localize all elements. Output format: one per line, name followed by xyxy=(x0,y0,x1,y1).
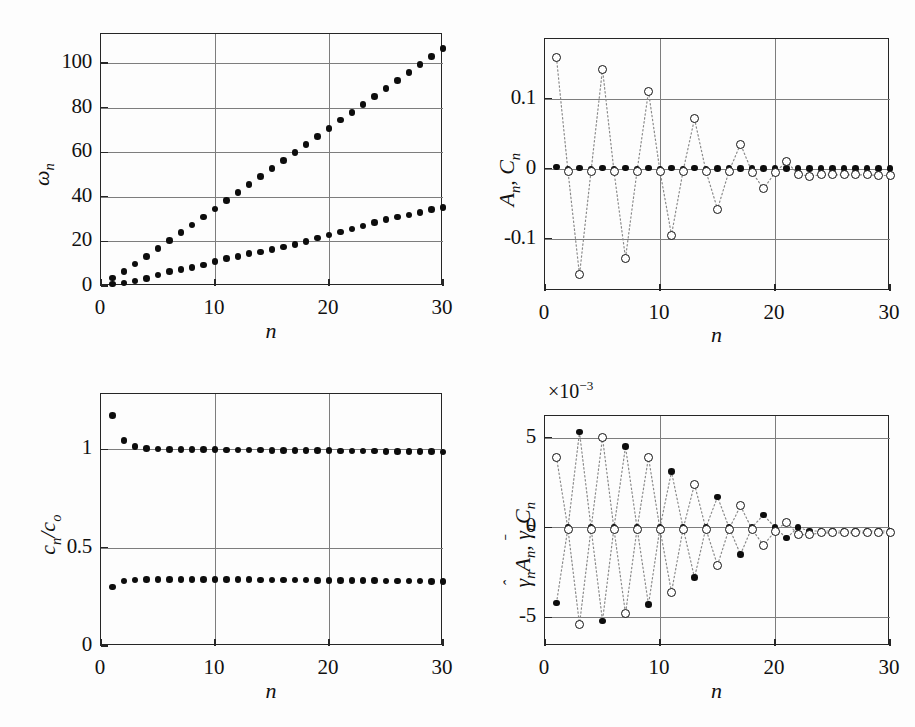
y-tickmark xyxy=(545,98,552,99)
data-point-branch-lower xyxy=(223,255,230,262)
data-point-branch-lower xyxy=(109,281,116,288)
data-point-cn-upper xyxy=(280,447,287,454)
data-point-branch-upper xyxy=(349,109,356,116)
data-point-Cn xyxy=(794,170,803,179)
x-tick-label: 30 xyxy=(849,302,915,323)
data-point-branch-lower xyxy=(178,266,185,273)
x-tick-label: 0 xyxy=(60,657,140,678)
y-gridline xyxy=(101,63,443,64)
data-point-branch-upper xyxy=(394,77,401,84)
x-axis-title-panel-omega: n xyxy=(241,318,301,344)
data-point-cn-upper xyxy=(428,448,435,455)
figure-root: 0204060801000102030nωn-0.100.10102030nAn… xyxy=(0,0,915,727)
data-point-cn-lower xyxy=(383,578,390,585)
x-tick-label: 20 xyxy=(734,302,814,323)
y-tickmark xyxy=(545,617,552,618)
data-point-gammabar-Cn xyxy=(874,528,883,537)
data-point-cn-lower xyxy=(257,577,264,584)
data-point-cn-lower xyxy=(178,576,185,583)
x-tickmark xyxy=(889,639,890,646)
data-point-gammabar-Cn xyxy=(702,525,711,534)
data-point-gammahat-An xyxy=(760,512,767,519)
data-point-gammabar-Cn xyxy=(886,528,895,537)
data-point-cn-lower xyxy=(200,576,207,583)
data-point-gammahat-An xyxy=(668,468,675,475)
data-point-branch-upper xyxy=(428,53,435,60)
data-point-Cn xyxy=(851,170,860,179)
data-point-branch-lower xyxy=(235,253,242,260)
data-point-cn-lower xyxy=(121,578,128,585)
y-tickmark xyxy=(101,196,108,197)
data-point-cn-upper xyxy=(371,448,378,455)
plot-area-panel-cnco xyxy=(100,393,442,645)
data-point-cn-lower xyxy=(132,577,139,584)
data-point-gammabar-Cn xyxy=(610,525,619,534)
x-gridline xyxy=(660,39,661,291)
data-point-gammabar-Cn xyxy=(794,530,803,539)
data-point-branch-upper xyxy=(132,261,139,268)
x-axis-title-panel-AnCn: n xyxy=(687,322,747,348)
x-tickmark xyxy=(659,284,660,291)
data-point-gammabar-Cn xyxy=(587,525,596,534)
x-gridline xyxy=(329,394,330,646)
data-point-branch-lower xyxy=(440,204,447,211)
y-tick-label: 60 xyxy=(20,140,92,161)
data-point-Cn xyxy=(679,167,688,176)
data-point-cn-lower xyxy=(326,577,333,584)
data-point-branch-lower xyxy=(189,264,196,271)
series-connector-gammahat-An xyxy=(545,416,890,646)
data-point-branch-lower xyxy=(371,219,378,226)
x-tick-label: 10 xyxy=(174,297,254,318)
plot-area-panel-omega xyxy=(100,33,442,285)
data-point-branch-upper xyxy=(166,237,173,244)
data-point-branch-lower xyxy=(121,280,128,287)
data-point-An xyxy=(645,165,652,172)
data-point-branch-lower xyxy=(292,241,299,248)
data-point-gammabar-Cn xyxy=(679,525,688,534)
y-tickmark xyxy=(545,238,552,239)
data-point-Cn xyxy=(828,170,837,179)
data-point-branch-lower xyxy=(246,250,253,257)
data-point-An xyxy=(622,165,629,172)
x-tickmark xyxy=(100,279,101,286)
x-tick-label: 0 xyxy=(60,297,140,318)
data-point-Cn xyxy=(874,171,883,180)
data-point-branch-upper xyxy=(303,141,310,148)
data-point-gammabar-Cn xyxy=(552,453,561,462)
x-gridline xyxy=(215,34,216,286)
data-point-cn-lower xyxy=(292,577,299,584)
data-point-Cn xyxy=(886,171,895,180)
data-point-cn-upper xyxy=(360,448,367,455)
data-point-Cn xyxy=(621,254,630,263)
data-point-Cn xyxy=(656,167,665,176)
data-point-gammahat-An xyxy=(783,535,790,542)
data-point-cn-upper xyxy=(121,437,128,444)
y-tickmark xyxy=(545,168,552,169)
data-point-gammabar-Cn xyxy=(713,561,722,570)
y-gridline xyxy=(545,99,890,100)
y-tickmark xyxy=(545,437,552,438)
data-point-gammahat-An xyxy=(553,600,560,607)
x-tick-label: 20 xyxy=(288,657,368,678)
y-tickmark xyxy=(545,527,552,528)
data-point-gammabar-Cn xyxy=(759,541,768,550)
y-tickmark xyxy=(101,285,108,286)
x-gridline xyxy=(329,34,330,286)
data-point-cn-upper xyxy=(383,448,390,455)
y-gridline xyxy=(101,241,443,242)
x-tickmark xyxy=(544,639,545,646)
data-point-gammabar-Cn xyxy=(863,528,872,537)
data-point-gammabar-Cn xyxy=(644,453,653,462)
data-point-cn-lower xyxy=(166,576,173,583)
data-point-An xyxy=(714,165,721,172)
data-point-cn-lower xyxy=(349,577,356,584)
data-point-cn-lower xyxy=(235,576,242,583)
data-point-cn-lower xyxy=(109,584,116,591)
y-tick-label: 40 xyxy=(20,185,92,206)
data-point-branch-upper xyxy=(235,189,242,196)
data-point-An xyxy=(668,165,675,172)
data-point-Cn xyxy=(644,87,653,96)
x-tick-label: 30 xyxy=(402,297,482,318)
data-point-cn-lower xyxy=(269,577,276,584)
data-point-branch-upper xyxy=(212,206,219,213)
